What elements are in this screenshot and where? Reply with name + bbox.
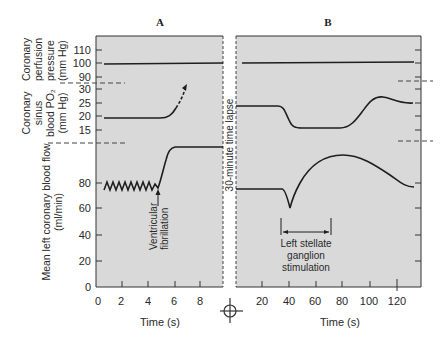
panel-b-x-tick-labels: 20 40 60 80 100 120 xyxy=(256,295,406,307)
annotation-stellate-stimulation: Left stellate ganglion stimulation xyxy=(280,238,332,273)
svg-text:Ventricular: Ventricular xyxy=(148,202,159,250)
svg-text:60: 60 xyxy=(309,295,321,307)
panel-a-x-axis-label: Time (s) xyxy=(140,316,180,328)
svg-text:(ml/min): (ml/min) xyxy=(52,193,64,231)
panel-b-x-axis-label: Time (s) xyxy=(320,316,360,328)
y-tick-labels: 110 100 90 30 25 20 15 80 60 40 20 0 xyxy=(73,44,91,293)
svg-text:110: 110 xyxy=(73,44,91,56)
panel-b-plot-area xyxy=(236,36,421,287)
svg-text:100: 100 xyxy=(360,295,378,307)
svg-text:120: 120 xyxy=(388,295,406,307)
panel-b-title: B xyxy=(324,16,332,28)
time-lapse-label: 30-minute time lapse xyxy=(224,98,235,191)
svg-text:6: 6 xyxy=(171,295,177,307)
y-axis-label-perfusion: Coronary perfusion pressure (mm Hg) xyxy=(20,37,68,81)
svg-text:30: 30 xyxy=(79,83,91,95)
svg-text:80: 80 xyxy=(79,177,91,189)
crosshair-icon xyxy=(220,298,243,323)
svg-text:pressure: pressure xyxy=(44,40,56,81)
svg-text:fibrillation: fibrillation xyxy=(159,208,170,250)
panel-a-perfusion-line xyxy=(104,63,223,64)
svg-text:Mean left coronary blood flow: Mean left coronary blood flow xyxy=(40,143,52,281)
svg-text:40: 40 xyxy=(283,295,295,307)
svg-text:stimulation: stimulation xyxy=(282,262,330,273)
svg-text:(mm Hg): (mm Hg) xyxy=(56,40,68,81)
svg-text:80: 80 xyxy=(336,295,348,307)
svg-text:15: 15 xyxy=(79,124,91,136)
svg-text:perfusion: perfusion xyxy=(32,38,44,81)
svg-text:20: 20 xyxy=(79,110,91,122)
annotation-ventricular-fibrillation: Ventricular fibrillation xyxy=(148,202,170,250)
y-axis-label-blood-flow: Mean left coronary blood flow (ml/min) xyxy=(40,143,64,281)
svg-text:4: 4 xyxy=(145,295,151,307)
svg-text:ganglion: ganglion xyxy=(287,250,325,261)
svg-text:60: 60 xyxy=(79,202,91,214)
svg-text:2: 2 xyxy=(118,295,124,307)
svg-text:(mm Hg): (mm Hg) xyxy=(56,93,68,134)
svg-text:25: 25 xyxy=(79,97,91,109)
svg-text:blood PO₂: blood PO₂ xyxy=(44,89,56,137)
svg-text:20: 20 xyxy=(256,295,268,307)
svg-text:Coronary: Coronary xyxy=(20,37,32,81)
svg-text:sinus: sinus xyxy=(32,101,44,126)
svg-text:0: 0 xyxy=(85,281,91,293)
svg-text:40: 40 xyxy=(79,229,91,241)
panel-a-x-tick-labels: 0 2 4 6 8 xyxy=(95,295,203,307)
svg-text:8: 8 xyxy=(197,295,203,307)
svg-text:Coronary: Coronary xyxy=(20,91,32,135)
svg-text:0: 0 xyxy=(95,295,101,307)
svg-text:90: 90 xyxy=(79,71,91,83)
panel-a-title: A xyxy=(156,16,164,28)
svg-text:100: 100 xyxy=(73,57,91,69)
panel-b-perfusion-line xyxy=(242,62,414,63)
svg-text:20: 20 xyxy=(79,255,91,267)
svg-text:Left stellate: Left stellate xyxy=(280,238,332,249)
physiology-figure: A B xyxy=(0,0,445,341)
y-axis-label-sinus-po2: Coronary sinus blood PO₂ (mm Hg) xyxy=(20,89,68,137)
